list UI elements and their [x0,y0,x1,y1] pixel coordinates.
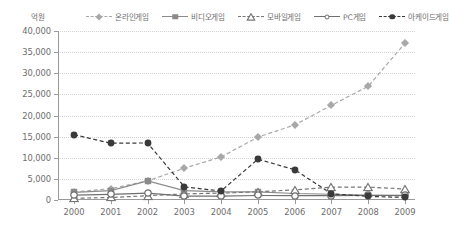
x-tick-label: 2008 [358,207,379,217]
legend-item-3[interactable]: PC게임 [314,11,366,22]
series-line-4 [74,135,405,198]
x-tick-label: 2005 [247,207,268,217]
data-point [180,164,189,173]
plot-area: 05,00010,00015,00020,00025,00030,00035,0… [58,31,415,200]
data-point [401,193,410,202]
y-tick-label: 5,000 [28,174,51,184]
series-lines [58,31,415,200]
data-point [180,192,189,201]
x-tick-label: 2007 [321,207,342,217]
y-tick-label: 15,000 [22,132,51,142]
legend-item-1[interactable]: 비디오게임 [162,11,225,22]
legend-marker-triangle-open-icon [238,11,264,22]
x-tick-label: 2002 [137,207,158,217]
data-point [106,190,115,199]
data-point [106,139,115,148]
x-tick-label: 2006 [284,207,305,217]
y-tick-label: 20,000 [22,111,51,121]
legend-item-2[interactable]: 모바일게임 [238,11,301,22]
series-line-2 [74,187,405,198]
data-point [180,182,189,191]
data-point [217,152,226,161]
data-point [70,191,79,200]
x-tick [258,200,259,204]
data-point [290,120,299,129]
y-tick-label: 40,000 [22,26,51,36]
y-tick-label: 10,000 [22,153,51,163]
legend-marker-diamond-icon [86,11,112,22]
data-point [364,192,373,201]
x-tick-label: 2001 [100,207,121,217]
data-point [290,191,299,200]
legend-item-0[interactable]: 온라인게임 [86,11,149,22]
data-point [327,189,336,198]
data-point [401,39,410,48]
y-tick-label: 0 [46,195,51,205]
legend-label: PC게임 [343,11,366,22]
data-point [253,155,262,164]
legend-label: 비디오게임 [191,11,225,22]
series-line-0 [74,43,405,192]
x-tick-label: 2004 [211,207,232,217]
y-tick-label: 35,000 [22,47,51,57]
data-point [290,165,299,174]
data-point [144,177,152,185]
x-tick [331,200,332,204]
data-point [253,133,262,142]
x-tick-label: 2003 [174,207,195,217]
data-point [253,191,262,200]
legend-label: 모바일게임 [267,11,301,22]
legend-label: 온라인게임 [115,11,149,22]
y-tick [54,200,58,201]
legend-marker-square-icon [162,11,188,22]
data-point [327,101,336,110]
x-tick-label: 2009 [395,207,416,217]
data-point [143,189,152,198]
data-point [364,82,373,91]
y-tick-label: 25,000 [22,89,51,99]
x-tick-label: 2000 [64,207,85,217]
legend-label: 아케이드게임 [408,11,449,22]
chart-legend: 온라인게임비디오게임모바일게임PC게임아케이드게임 [86,11,449,22]
legend-marker-circle-open-icon [314,11,340,22]
x-tick [295,200,296,204]
y-axis-unit-label: 억원 [31,11,45,22]
x-tick [148,200,149,204]
y-tick-label: 30,000 [22,68,51,78]
x-tick [221,200,222,204]
data-point [143,138,152,147]
data-point [70,130,79,139]
data-point [217,186,226,195]
legend-item-4[interactable]: 아케이드게임 [379,11,449,22]
legend-marker-circle-filled-icon [379,11,405,22]
x-tick [184,200,185,204]
